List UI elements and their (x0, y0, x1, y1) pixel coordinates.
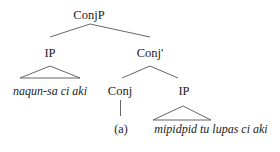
edge-conjbar-to-conj (122, 66, 150, 78)
node-conjp-label: ConjP (73, 8, 104, 22)
node-conj-label: Conj (108, 84, 132, 98)
leaf-naqun-sa-ci-aki: naqun-sa ci aki (13, 84, 87, 98)
triangle-right-ip (153, 106, 211, 120)
syntax-tree-diagram: ConjP IP naqun-sa ci aki Conj' Conj (a) … (0, 0, 280, 152)
node-right-ip-label: IP (178, 84, 189, 98)
edge-conjbar-to-ip (150, 66, 178, 78)
leaf-mipidpid-tu-lupas-ci-aki: mipidpid tu lupas ci aki (154, 122, 267, 136)
leaf-a: (a) (114, 122, 127, 136)
node-left-ip-label: IP (44, 46, 55, 60)
edge-conjp-to-conjbar (90, 24, 150, 37)
edge-conjp-to-ip (50, 24, 90, 37)
node-conjbar-label: Conj' (137, 46, 164, 60)
triangle-left-ip (20, 66, 80, 78)
